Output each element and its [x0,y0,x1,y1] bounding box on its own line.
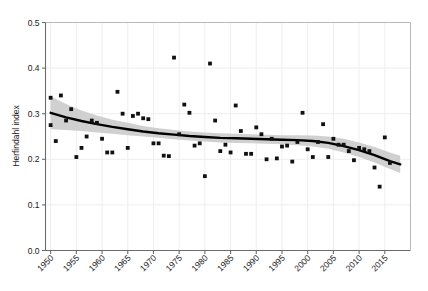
data-point [213,119,217,123]
data-point [162,154,166,158]
data-point [388,161,392,165]
data-point [347,149,351,153]
data-point [224,143,228,147]
data-point [64,119,68,123]
data-point [331,137,335,141]
y-axis-tick-label: 0.0 [28,246,40,256]
data-point [239,129,243,133]
data-point [167,154,171,158]
data-point [49,123,53,127]
data-point [121,112,125,116]
data-point [244,152,248,156]
data-point [49,96,53,100]
data-point [157,141,161,145]
data-point [116,90,120,94]
data-point [367,149,371,153]
data-point [321,122,325,126]
data-point [131,114,135,118]
data-point [69,107,73,111]
data-point [290,160,294,164]
data-point [301,111,305,115]
data-point [280,145,284,149]
y-axis-tick-label: 0.5 [28,18,40,28]
data-point [80,146,84,150]
y-axis-tick-label: 0.2 [28,154,40,164]
data-point [260,132,264,136]
data-point [74,155,78,159]
data-point [306,147,310,151]
data-point [357,146,361,150]
data-point [136,112,140,116]
data-point [311,155,315,159]
data-point [265,157,269,161]
data-point [229,151,233,155]
y-axis-tick-label: 0.3 [28,109,40,119]
data-point [100,137,104,141]
herfindahl-index-scatter-chart: 0.00.10.20.30.40.5 195019551960196519701… [0,0,428,291]
data-point [316,140,320,144]
data-point [378,185,382,189]
data-point [152,141,156,145]
data-point [172,56,176,60]
data-point [296,140,300,144]
data-point [254,125,258,129]
data-point [326,155,330,159]
data-point [373,166,377,170]
data-point [188,111,192,115]
data-point [198,141,202,145]
data-point [90,119,94,123]
data-point [182,103,186,107]
data-point [193,144,197,148]
data-point [208,62,212,66]
y-axis-tick-label: 0.1 [28,200,40,210]
data-point [285,144,289,148]
data-point [126,146,130,150]
data-point [218,149,222,153]
data-point [146,117,150,121]
data-point [85,135,89,139]
data-point [249,152,253,156]
data-point [177,132,181,136]
data-point [342,143,346,147]
data-point [110,151,114,155]
data-point [383,136,387,140]
data-point [337,143,341,147]
data-point [352,158,356,162]
data-point [203,174,207,178]
data-point [95,121,99,125]
data-point [275,156,279,160]
data-point [105,151,109,155]
data-point [362,147,366,151]
y-axis-title: Herfindahl index [11,105,21,167]
data-point [141,116,145,120]
data-point [59,94,63,98]
data-point [54,139,58,143]
data-point [234,104,238,108]
chart-container: 0.00.10.20.30.40.5 195019551960196519701… [0,0,428,291]
y-axis-tick-label: 0.4 [28,63,40,73]
data-point [270,137,274,141]
